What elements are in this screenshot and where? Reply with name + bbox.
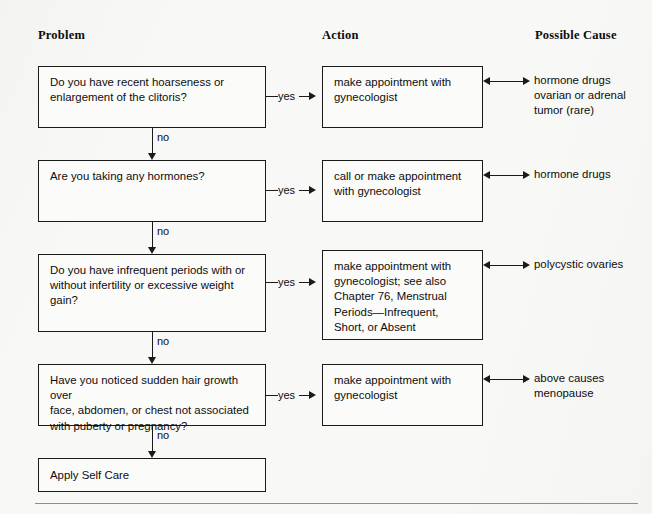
footer-divider bbox=[35, 503, 638, 504]
cause-connector-line-4 bbox=[490, 379, 523, 380]
terminal-box-apply-self-care[interactable]: Apply Self Care bbox=[38, 458, 266, 492]
action-box-2-text: call or make appointment with gynecologi… bbox=[334, 169, 476, 199]
cause-arrowhead-left-4 bbox=[483, 375, 490, 383]
flowchart-page: Problem Action Possible Cause Do you hav… bbox=[0, 0, 652, 514]
column-header-action: Action bbox=[322, 28, 359, 43]
yes-connector-line-3b bbox=[299, 282, 309, 283]
no-label-3: no bbox=[157, 335, 169, 347]
no-connector-line-3 bbox=[152, 332, 153, 357]
cause-connector-line-2 bbox=[490, 175, 523, 176]
cause-text-3: polycystic ovaries bbox=[534, 257, 623, 272]
action-box-1[interactable]: make appointment with gynecologist bbox=[322, 66, 483, 128]
cause-arrowhead-left-2 bbox=[483, 171, 490, 179]
yes-arrowhead-1 bbox=[309, 92, 316, 100]
yes-arrowhead-4 bbox=[309, 391, 316, 399]
action-box-4[interactable]: make appointment with gynecologist bbox=[322, 364, 483, 426]
column-header-problem: Problem bbox=[38, 28, 85, 43]
yes-connector-line-1b bbox=[299, 96, 309, 97]
no-arrowhead-3 bbox=[148, 357, 156, 364]
terminal-box-text: Apply Self Care bbox=[50, 468, 259, 483]
yes-arrowhead-2 bbox=[309, 186, 316, 194]
cause-connector-line-3 bbox=[490, 265, 523, 266]
problem-box-2-text: Are you taking any hormones? bbox=[50, 169, 259, 184]
cause-arrowhead-right-1 bbox=[523, 77, 530, 85]
yes-connector-line-3 bbox=[266, 282, 278, 283]
no-arrowhead-4 bbox=[148, 451, 156, 458]
problem-box-4[interactable]: Have you noticed sudden hair growth over… bbox=[38, 364, 266, 426]
action-box-4-text: make appointment with gynecologist bbox=[334, 373, 476, 403]
yes-connector-line-4b bbox=[299, 395, 309, 396]
problem-box-4-text: Have you noticed sudden hair growth over… bbox=[50, 373, 259, 434]
action-box-2[interactable]: call or make appointment with gynecologi… bbox=[322, 160, 483, 222]
problem-box-1[interactable]: Do you have recent hoarseness or enlarge… bbox=[38, 66, 266, 128]
column-header-possible-cause: Possible Cause bbox=[535, 28, 617, 43]
no-label-4: no bbox=[157, 429, 169, 441]
cause-text-1: hormone drugs ovarian or adrenal tumor (… bbox=[534, 73, 626, 119]
cause-arrowhead-left-3 bbox=[483, 261, 490, 269]
yes-arrowhead-3 bbox=[309, 278, 316, 286]
cause-arrowhead-left-1 bbox=[483, 77, 490, 85]
no-arrowhead-1 bbox=[148, 153, 156, 160]
yes-connector-line-2b bbox=[299, 190, 309, 191]
cause-text-4: above causes menopause bbox=[534, 371, 604, 401]
action-box-3-text: make appointment with gynecologist; see … bbox=[334, 259, 476, 335]
no-connector-line-4 bbox=[152, 426, 153, 451]
yes-label-4: yes bbox=[278, 389, 295, 401]
no-connector-line-1 bbox=[152, 128, 153, 153]
yes-connector-line-1 bbox=[266, 96, 278, 97]
yes-label-3: yes bbox=[278, 276, 295, 288]
no-connector-line-2 bbox=[152, 222, 153, 247]
problem-box-2[interactable]: Are you taking any hormones? bbox=[38, 160, 266, 222]
yes-label-1: yes bbox=[278, 90, 295, 102]
cause-arrowhead-right-4 bbox=[523, 375, 530, 383]
cause-arrowhead-right-2 bbox=[523, 171, 530, 179]
no-label-2: no bbox=[157, 225, 169, 237]
yes-label-2: yes bbox=[278, 184, 295, 196]
cause-text-2: hormone drugs bbox=[534, 167, 611, 182]
yes-connector-line-4 bbox=[266, 395, 278, 396]
cause-arrowhead-right-3 bbox=[523, 261, 530, 269]
no-label-1: no bbox=[157, 131, 169, 143]
action-box-3[interactable]: make appointment with gynecologist; see … bbox=[322, 250, 483, 340]
problem-box-3[interactable]: Do you have infrequent periods with or w… bbox=[38, 254, 266, 332]
problem-box-1-text: Do you have recent hoarseness or enlarge… bbox=[50, 75, 259, 105]
action-box-1-text: make appointment with gynecologist bbox=[334, 75, 476, 105]
yes-connector-line-2 bbox=[266, 190, 278, 191]
no-arrowhead-2 bbox=[148, 247, 156, 254]
cause-connector-line-1 bbox=[490, 81, 523, 82]
problem-box-3-text: Do you have infrequent periods with or w… bbox=[50, 263, 259, 309]
